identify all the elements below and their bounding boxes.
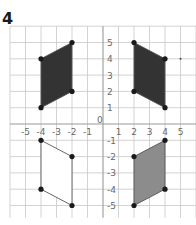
parallelogram-top-right (134, 43, 165, 108)
vertex-dot (162, 56, 167, 61)
stray-dot (179, 58, 181, 60)
vertex-dot (38, 56, 43, 61)
vertex-dot (69, 203, 74, 208)
vertex-dot (69, 89, 74, 94)
vertex-dot (131, 40, 136, 45)
vertex-dot (38, 187, 43, 192)
vertex-dot (162, 187, 167, 192)
y-tick-label: 4 (107, 54, 113, 64)
vertex-dot (38, 138, 43, 143)
y-tick-label: -4 (107, 185, 116, 195)
x-tick-label: 5 (178, 127, 184, 137)
y-tick-label: 1 (107, 103, 113, 113)
y-tick-label: -1 (107, 136, 116, 146)
vertex-dot (162, 105, 167, 110)
x-tick-label: 1 (116, 127, 122, 137)
y-tick-label: -5 (107, 201, 116, 211)
parallelogram-top-left (41, 43, 72, 108)
x-tick-label: -1 (83, 127, 92, 137)
x-tick-label: 2 (131, 127, 137, 137)
vertex-dot (162, 138, 167, 143)
y-tick-label: 3 (107, 71, 113, 81)
x-tick-label: 4 (162, 127, 168, 137)
y-tick-label: 5 (107, 38, 113, 48)
y-tick-label: -3 (107, 168, 116, 178)
parallelogram-bottom-right (134, 140, 165, 205)
x-tick-label: -3 (52, 127, 61, 137)
y-tick-label: 2 (107, 87, 113, 97)
vertex-dot (69, 154, 74, 159)
x-tick-label: 3 (147, 127, 153, 137)
vertex-dot (131, 89, 136, 94)
vertex-dot (69, 40, 74, 45)
coordinate-grid: 0-5-4-3-2-11234554321-1-2-3-4-5 (0, 0, 196, 225)
vertex-dot (38, 105, 43, 110)
x-tick-label: -4 (37, 127, 46, 137)
vertex-dot (131, 154, 136, 159)
origin-label: 0 (97, 115, 103, 125)
vertex-dot (131, 203, 136, 208)
y-tick-label: -2 (107, 152, 116, 162)
x-tick-label: -5 (21, 127, 30, 137)
parallelogram-bottom-left (41, 140, 72, 205)
x-tick-label: -2 (68, 127, 77, 137)
